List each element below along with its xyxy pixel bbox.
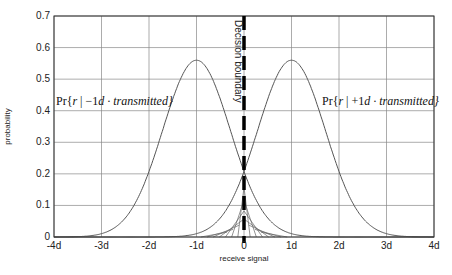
y-tick-label: 0.5 bbox=[36, 73, 50, 84]
x-tick-label: -1d bbox=[189, 240, 203, 251]
x-axis-ticks: -4d-3d-2d-1d01d2d3d4d bbox=[47, 240, 440, 251]
left-curve-label: Pr{r | −1d · transmitted} bbox=[56, 94, 173, 108]
x-tick-label: 3d bbox=[381, 240, 392, 251]
right-curve-label: Pr{r | +1d · transmitted} bbox=[322, 94, 439, 108]
decision-boundary-label: Decision boundary bbox=[233, 20, 244, 103]
y-axis-ticks: 00.10.20.30.40.50.60.7 bbox=[36, 10, 50, 242]
x-tick-label: 2d bbox=[333, 240, 344, 251]
x-axis-label: receive signal bbox=[220, 254, 269, 263]
x-tick-label: -2d bbox=[142, 240, 156, 251]
y-tick-label: 0.1 bbox=[36, 199, 50, 210]
chart: Decision boundary -4d-3d-2d-1d01d2d3d4d … bbox=[0, 0, 452, 275]
y-tick-label: 0.7 bbox=[36, 10, 50, 21]
y-tick-label: 0.6 bbox=[36, 42, 50, 53]
x-tick-label: 4d bbox=[428, 240, 439, 251]
y-tick-label: 0.4 bbox=[36, 105, 50, 116]
x-tick-label: -3d bbox=[94, 240, 108, 251]
y-tick-label: 0 bbox=[44, 231, 50, 242]
y-axis-label: probability bbox=[3, 108, 12, 144]
x-tick-label: 0 bbox=[241, 240, 247, 251]
y-tick-label: 0.2 bbox=[36, 168, 50, 179]
y-tick-label: 0.3 bbox=[36, 136, 50, 147]
x-tick-label: 1d bbox=[286, 240, 297, 251]
